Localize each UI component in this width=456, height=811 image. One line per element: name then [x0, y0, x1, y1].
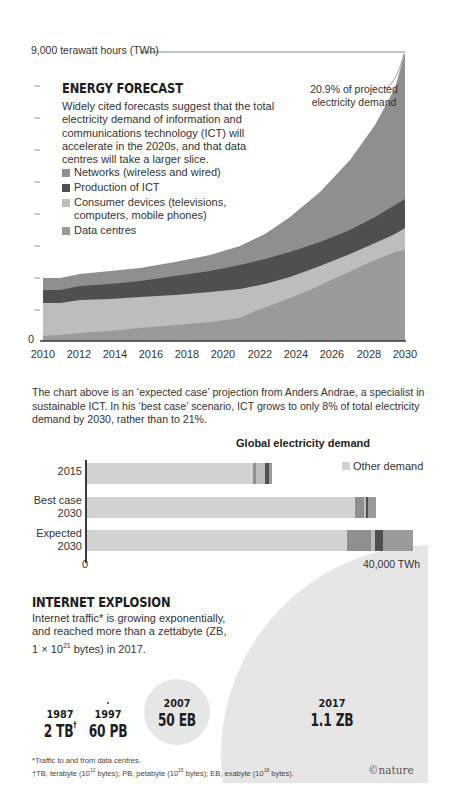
legend-item-production: Production of ICT	[62, 181, 262, 194]
y-axis-ticks	[34, 86, 40, 310]
y-axis-zero-label: 0	[28, 333, 34, 345]
internet-explosion-description: Internet traffic* is growing exponential…	[32, 612, 232, 656]
desc-exponent: 21	[63, 642, 71, 649]
bar-seg-consumer	[256, 463, 265, 484]
x-tick-label: 2020	[203, 348, 243, 360]
x-tick-label: 2012	[59, 348, 99, 360]
bar-row-label-2015: 2015	[16, 465, 82, 478]
traffic-year: 1997	[82, 708, 135, 721]
bar-seg-other	[87, 530, 347, 551]
x-tick-label: 2028	[349, 348, 389, 360]
data-centres-swatch-icon	[62, 227, 70, 235]
bar-best-case-2030	[87, 497, 376, 518]
fn-text: bytes); EB, exabyte (10	[184, 769, 264, 778]
legend-label: Networks (wireless and wired)	[74, 166, 221, 179]
legend-item-consumer: Consumer devices (televisions, computers…	[62, 196, 232, 222]
x-tick-label: 2014	[95, 348, 135, 360]
footnote-units: †TB, terabyte (1012 bytes); PB, petabyte…	[32, 766, 332, 778]
row-label-line: Expected	[16, 527, 82, 540]
fn-text: bytes).	[269, 769, 294, 778]
energy-forecast-description: Widely cited forecasts suggest that the …	[62, 100, 282, 166]
x-tick-label: 2026	[312, 348, 352, 360]
legend-label: Data centres	[74, 224, 136, 237]
other-demand-swatch-icon	[342, 462, 350, 470]
footnote-traffic: *Traffic to and from data centres.	[32, 756, 332, 766]
projection-annotation: 20.9% of projected electricity demand	[294, 83, 414, 108]
row-label-line: 2030	[16, 540, 82, 553]
bar-seg-networks	[347, 530, 371, 551]
bubble-2017	[221, 545, 428, 783]
bar-2015	[87, 463, 272, 484]
traffic-value-text: 2 TB	[44, 721, 74, 741]
desc-text: bytes) in 2017.	[71, 642, 146, 654]
traffic-point-2007: 2007 50 EB	[147, 697, 207, 730]
traffic-point-2017: 2017 1.1 ZB	[297, 697, 367, 730]
traffic-value: 1.1 ZB	[307, 710, 357, 730]
x-tick-label: 2010	[23, 348, 63, 360]
energy-legend: Networks (wireless and wired) Production…	[62, 166, 262, 239]
bar-seg-data-centres	[368, 497, 376, 518]
bar-axis-max-label: 40,000 TWh	[340, 558, 420, 570]
row-label-line: 2030	[16, 507, 82, 520]
networks-swatch-icon	[62, 169, 70, 177]
legend-label: Production of ICT	[74, 181, 160, 194]
other-demand-legend: Other demand	[342, 460, 423, 472]
other-demand-label: Other demand	[353, 460, 423, 472]
energy-forecast-title: ENERGY FORECAST	[62, 80, 183, 96]
bar-seg-data-centres	[269, 463, 272, 484]
bar-seg-data-centres	[383, 530, 413, 551]
traffic-value: 60 PB	[86, 721, 129, 741]
bar-seg-networks	[355, 497, 364, 518]
legend-item-networks: Networks (wireless and wired)	[62, 166, 262, 179]
bar-seg-production	[375, 530, 383, 551]
x-tick-label: 2030	[385, 348, 425, 360]
traffic-value: 50 EB	[155, 710, 198, 730]
x-tick-label: 2022	[240, 348, 280, 360]
internet-explosion-title: INTERNET EXPLOSION	[32, 594, 170, 610]
traffic-year: 2007	[151, 697, 204, 710]
bar-axis-min-label: 0	[82, 558, 88, 570]
traffic-point-1997: 1997 60 PB	[78, 708, 138, 741]
x-tick-label: 2018	[167, 348, 207, 360]
bar-row-label-best-case: Best case 2030	[16, 494, 82, 520]
production-swatch-icon	[62, 184, 70, 192]
row-label-line: 2015	[16, 465, 82, 478]
fn-text: bytes); PB, petabyte (10	[96, 769, 179, 778]
x-tick-label: 2024	[276, 348, 316, 360]
traffic-year: 2017	[301, 697, 363, 710]
bar-row-label-expected: Expected 2030	[16, 527, 82, 553]
dagger-mark: †	[73, 720, 76, 730]
demand-chart-title: Global electricity demand	[0, 437, 456, 449]
x-tick-label: 2016	[131, 348, 171, 360]
traffic-value: 2 TB†	[38, 721, 81, 741]
legend-item-data-centres: Data centres	[62, 224, 262, 237]
bar-seg-other	[87, 463, 253, 484]
bar-expected-2030	[87, 530, 413, 551]
bubble-1997-dot	[107, 702, 109, 704]
consumer-swatch-icon	[62, 199, 70, 207]
bar-seg-other	[87, 497, 355, 518]
legend-label: Consumer devices (televisions, computers…	[74, 196, 232, 222]
y-axis-top-label: 9,000 terawatt hours (TWh)	[31, 44, 159, 56]
row-label-line: Best case	[16, 494, 82, 507]
nature-credit: ©nature	[368, 764, 414, 776]
scenario-explanation-text: The chart above is an ‘expected case’ pr…	[32, 386, 432, 427]
fn-text: †TB, terabyte (10	[32, 769, 90, 778]
